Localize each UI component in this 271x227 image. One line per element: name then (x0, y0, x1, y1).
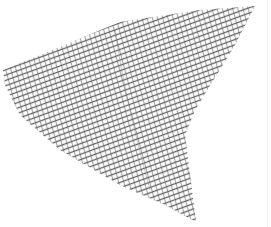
mesh-image (0, 0, 271, 227)
crosshatch-fill (0, 0, 271, 227)
right-edge-line (267, 0, 268, 227)
mesh-drawing (0, 0, 271, 227)
